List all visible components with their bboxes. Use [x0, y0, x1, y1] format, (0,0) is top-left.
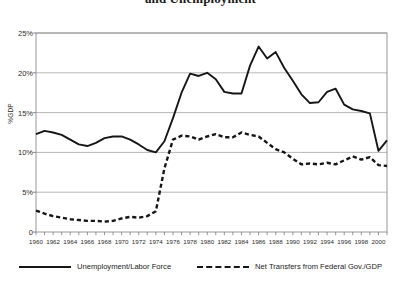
x-tick-label: 2000	[372, 238, 386, 245]
series-line-unemployment	[36, 47, 387, 153]
legend-item-unemployment: Unemployment/Labor Force	[19, 262, 171, 271]
x-tick-label: 1972	[132, 238, 146, 245]
plot-frame	[36, 33, 387, 232]
legend-solid-line-icon	[19, 266, 71, 268]
x-tick-label: 1968	[98, 238, 112, 245]
x-tick-label: 1994	[320, 238, 334, 245]
x-tick-label: 1982	[217, 238, 231, 245]
x-tick-label: 1984	[235, 238, 249, 245]
x-tick-label: 1964	[63, 238, 77, 245]
x-tick-label: 1962	[46, 238, 60, 245]
x-tick-label: 1970	[115, 238, 129, 245]
legend-dashed-line-icon	[197, 266, 249, 268]
x-tick-label: 1974	[149, 238, 163, 245]
x-tick-label: 1988	[269, 238, 283, 245]
x-tick-label: 1978	[183, 238, 197, 245]
x-tick-label: 1992	[303, 238, 317, 245]
x-tick-label: 1980	[200, 238, 214, 245]
x-tick-label: 1998	[354, 238, 368, 245]
legend-label: Unemployment/Labor Force	[77, 262, 171, 271]
x-tick-label: 1990	[286, 238, 300, 245]
legend-item-net-transfers: Net Transfers from Federal Gov./GDP	[197, 262, 382, 271]
x-tick-label: 1986	[252, 238, 266, 245]
legend-label: Net Transfers from Federal Gov./GDP	[255, 262, 382, 271]
x-tick-label: 1960	[29, 238, 43, 245]
x-tick-label: 1976	[166, 238, 180, 245]
chart-legend: Unemployment/Labor Force Net Transfers f…	[0, 262, 401, 271]
x-tick-label: 1996	[337, 238, 351, 245]
x-tick-label: 1966	[80, 238, 94, 245]
chart-container: and Unemployment %GDP 25% 20% 15% 10% 5%…	[0, 0, 401, 282]
